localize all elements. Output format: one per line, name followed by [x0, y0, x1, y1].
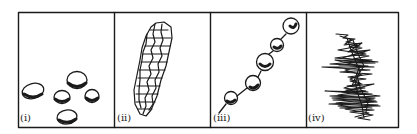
panel-label-iv: (iv): [308, 113, 325, 123]
figure-svg: [0, 0, 417, 134]
figure: (i) (ii) (iii) (iv): [0, 0, 417, 134]
panel-i-cells: [20, 72, 99, 126]
panel-iii-chain: [219, 18, 299, 113]
panel-label-i: (i): [20, 113, 31, 123]
panel-frame: [19, 13, 399, 128]
panel-label-ii: (ii): [117, 113, 131, 123]
panel-ii-cluster: [134, 22, 172, 116]
panel-label-iii: (iii): [213, 113, 230, 123]
panel-iv-tangle: [322, 34, 380, 120]
